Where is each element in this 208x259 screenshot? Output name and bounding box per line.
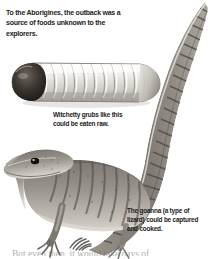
intro-paragraph: To the Aborigines, the outback was a sou…	[6, 8, 124, 39]
goanna-illustration	[4, 149, 152, 259]
bottom-clipped-text: But even then, it would take days of	[12, 249, 202, 256]
caption-witchetty-grub: Witchetty grubs like this could be eaten…	[53, 110, 132, 128]
page-root: To the Aborigines, the outback was a sou…	[0, 0, 208, 259]
witchetty-grub-body	[12, 62, 161, 108]
caption-goanna: The goanna (a type of lizard) could be c…	[127, 206, 201, 233]
